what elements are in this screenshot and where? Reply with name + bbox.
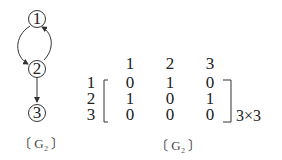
cell-3-2: 0 [163,106,177,124]
cell-3-3: 0 [203,106,217,124]
matrix-size-label: 3×3 [236,107,261,125]
cell-3-1: 0 [123,106,137,124]
matrix-brackets [0,0,282,160]
matrix-caption: 〔 G₂ 〕 [155,135,201,154]
